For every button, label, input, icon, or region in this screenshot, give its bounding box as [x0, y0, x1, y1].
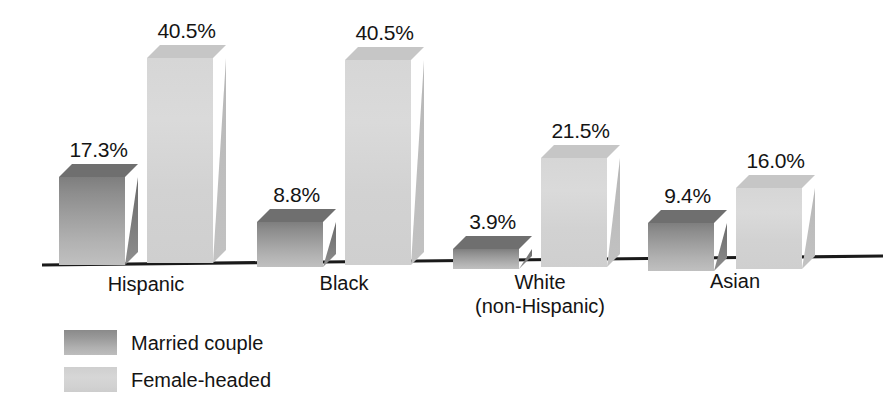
bar-front-face — [147, 58, 213, 263]
category-label-line1: White — [514, 271, 565, 293]
bar-group-asian: 9.4% 16.0% — [648, 0, 818, 300]
bar-front-face — [541, 158, 607, 267]
bar-group-black: 8.8% 40.5% — [257, 0, 427, 300]
category-label-black: Black — [254, 271, 434, 295]
bar-top-face — [257, 209, 336, 222]
bar-top-face — [453, 236, 532, 249]
legend-swatch-married-couple — [64, 330, 117, 355]
bar-chart: 17.3% 40.5% 8.8% 40.5% — [0, 0, 883, 418]
bar-top-face — [648, 210, 727, 223]
bar-hispanic-married-couple[interactable]: 17.3% — [59, 177, 125, 265]
bar-asian-female-headed[interactable]: 16.0% — [736, 188, 802, 269]
bar-side-face — [519, 249, 532, 269]
bar-side-face — [607, 158, 620, 267]
category-label-line2: (non-Hispanic) — [450, 294, 630, 318]
bar-asian-married-couple[interactable]: 9.4% — [648, 223, 714, 271]
legend-swatch-female-headed — [64, 367, 117, 392]
bar-front-face — [648, 223, 714, 271]
bar-black-married-couple[interactable]: 8.8% — [257, 222, 323, 267]
bar-group-white-non-hispanic: 3.9% 21.5% — [453, 0, 623, 300]
bar-front-face — [453, 249, 519, 269]
bar-side-face — [125, 177, 138, 265]
category-label-line1: Hispanic — [108, 273, 185, 295]
legend-label-married-couple: Married couple — [131, 333, 263, 353]
legend-item-female-headed[interactable]: Female-headed — [64, 361, 271, 398]
bar-front-face — [257, 222, 323, 267]
category-label-line1: Black — [320, 272, 369, 294]
bar-top-face — [147, 45, 226, 58]
category-label-line1: Asian — [710, 270, 760, 292]
bar-black-female-headed[interactable]: 40.5% — [345, 60, 411, 265]
bar-top-face — [541, 145, 620, 158]
bar-front-face — [59, 177, 125, 265]
bar-white-married-couple[interactable]: 3.9% — [453, 249, 519, 269]
bar-hispanic-female-headed[interactable]: 40.5% — [147, 58, 213, 263]
category-label-asian: Asian — [645, 269, 825, 293]
bar-side-face — [213, 58, 226, 263]
bar-side-face — [714, 223, 727, 271]
legend-item-married-couple[interactable]: Married couple — [64, 324, 271, 361]
bar-side-face — [411, 60, 424, 265]
bar-white-female-headed[interactable]: 21.5% — [541, 158, 607, 267]
bar-top-face — [345, 47, 424, 60]
legend-label-female-headed: Female-headed — [131, 370, 271, 390]
plot-area: 17.3% 40.5% 8.8% 40.5% — [0, 0, 883, 300]
bar-front-face — [736, 188, 802, 269]
category-label-hispanic: Hispanic — [56, 272, 236, 296]
legend: Married couple Female-headed — [64, 324, 271, 398]
bar-group-hispanic: 17.3% 40.5% — [59, 0, 229, 300]
bar-front-face — [345, 60, 411, 265]
bar-top-face — [736, 175, 815, 188]
bar-side-face — [802, 188, 815, 269]
category-label-white-non-hispanic: White (non-Hispanic) — [450, 270, 630, 318]
bar-side-face — [323, 222, 336, 267]
bar-top-face — [59, 164, 138, 177]
